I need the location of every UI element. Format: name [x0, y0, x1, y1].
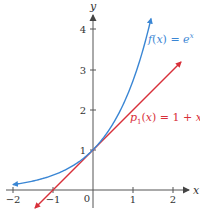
- x-tick-label: −2: [6, 194, 21, 205]
- y-tick-label: 3: [80, 65, 86, 76]
- x-tick-label: 1: [130, 194, 136, 205]
- exp-curve: [93, 19, 151, 150]
- y-tick-label: 4: [80, 24, 86, 35]
- linear-function-label: p1(x) = 1 + x: [130, 111, 200, 126]
- linear-approximation-line: [91, 62, 181, 152]
- linear-approximation-line-left: [35, 152, 91, 208]
- y-tick-label: 2: [80, 105, 86, 116]
- y-tick-label: 1: [80, 145, 86, 156]
- x-tick-label: 2: [170, 194, 176, 205]
- exp-function-label: f(x) = ex: [147, 32, 194, 46]
- x-axis-label: x: [193, 184, 200, 197]
- y-axis-label: y: [89, 0, 97, 13]
- chart-canvas: −2 −1 0 1 2 1 2 3 4 x y f(x) = ex p1(x) …: [0, 0, 200, 218]
- origin-label: 0: [84, 193, 90, 204]
